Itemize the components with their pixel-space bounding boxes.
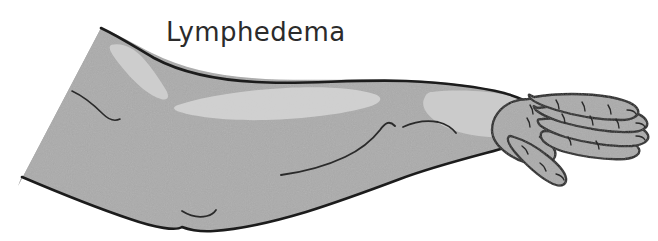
- hand-group: [492, 94, 648, 186]
- arm-group: [18, 28, 538, 231]
- lymphedema-arm-illustration: [0, 0, 658, 241]
- figure-root: Lymphedema: [0, 0, 658, 241]
- shoulder-cut-edge: [18, 28, 114, 213]
